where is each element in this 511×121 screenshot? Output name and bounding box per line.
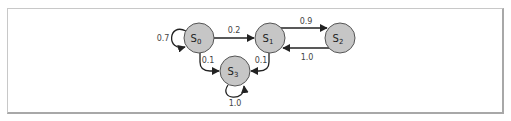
edge-s1-s3: 0.1 — [251, 53, 269, 71]
edge-s3-s3: 1.0 — [226, 85, 244, 108]
edge-label: 0.1 — [202, 56, 215, 65]
edge-s0-s0: 0.7 — [157, 29, 186, 47]
node-s3: S3 — [220, 56, 250, 86]
edge-label: 0.2 — [228, 26, 241, 35]
node-s2: S2 — [325, 23, 355, 53]
markov-chain-diagram: 0.7 0.2 0.1 0.9 0.1 1.0 1.0 S0 S1 S2 S3 — [0, 0, 511, 121]
edge-s0-s3: 0.1 — [200, 53, 219, 71]
edge-label: 0.7 — [157, 34, 170, 43]
edge-label: 1.0 — [301, 53, 314, 62]
edge-label: 1.0 — [229, 99, 242, 108]
node-s1: S1 — [255, 23, 285, 53]
edge-s1-s2: 0.9 — [280, 17, 327, 28]
edge-label: 0.9 — [300, 17, 313, 26]
node-subscript: 0 — [197, 38, 201, 46]
node-s0: S0 — [184, 23, 214, 53]
node-subscript: 2 — [339, 38, 343, 46]
edge-s0-s1: 0.2 — [214, 26, 254, 38]
node-subscript: 3 — [234, 71, 238, 79]
node-subscript: 1 — [269, 38, 273, 46]
edge-s2-s1: 1.0 — [283, 48, 330, 62]
edge-label: 0.1 — [255, 56, 268, 65]
